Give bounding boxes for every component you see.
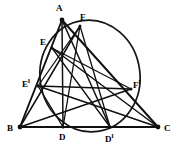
point-label-text-B: B bbox=[7, 123, 13, 133]
segment-A-D bbox=[62, 20, 63, 127]
point-dot-B bbox=[18, 125, 23, 130]
point-dot-Ep bbox=[37, 85, 40, 88]
point-label-Fp: Fl bbox=[133, 79, 140, 90]
point-label-B: B bbox=[7, 124, 13, 133]
point-label-Dp: Dl bbox=[105, 133, 113, 144]
point-label-D: D bbox=[59, 133, 66, 142]
point-label-prime-Ep: l bbox=[28, 77, 30, 85]
point-label-text-D: D bbox=[59, 132, 66, 142]
segment-Dp-F bbox=[80, 26, 110, 127]
segment-Ep-Fp bbox=[38, 86, 131, 89]
point-dot-F bbox=[79, 25, 82, 28]
point-label-E: E bbox=[40, 38, 46, 47]
point-label-A: A bbox=[56, 4, 63, 13]
point-label-text-C: C bbox=[164, 123, 171, 133]
point-dot-C bbox=[156, 125, 161, 130]
point-label-C: C bbox=[164, 124, 171, 133]
geometry-canvas bbox=[0, 0, 179, 148]
point-label-prime-Dp: l bbox=[112, 132, 114, 140]
point-label-text-F: F bbox=[80, 12, 86, 22]
geometry-figure: ABCDDlEElFFl bbox=[0, 0, 179, 148]
point-label-text-A: A bbox=[56, 3, 63, 13]
point-label-text-E: E bbox=[40, 37, 46, 47]
point-dot-A bbox=[60, 18, 65, 23]
point-label-F: F bbox=[80, 13, 86, 22]
point-dot-Dp bbox=[109, 126, 112, 129]
point-label-prime-Fp: l bbox=[139, 78, 141, 86]
point-dot-E bbox=[51, 47, 54, 50]
point-label-Ep: El bbox=[22, 78, 30, 89]
point-dot-D bbox=[62, 126, 65, 129]
